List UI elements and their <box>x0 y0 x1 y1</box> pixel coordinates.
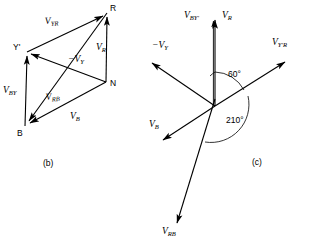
node-label-n: N <box>110 78 116 88</box>
vector-c-neg-v-y-line <box>152 63 215 106</box>
vector-label-c-v-b: VB <box>149 119 159 130</box>
vector-label-c-v-y-prime-r: VY'R <box>272 37 287 48</box>
vector-v-r-line <box>106 17 107 82</box>
node-label-r: R <box>110 3 116 13</box>
vector-label-v-by: VBY <box>3 85 18 96</box>
vector-label-c-v-by-prime: VBY' <box>184 10 200 21</box>
phasor-figure: R Y' N B VYR VR VBY −VY VRB VB <box>0 0 312 244</box>
vector-label-c-neg-v-y: −VY <box>152 40 169 51</box>
angle-arc-60-tail <box>210 72 215 76</box>
vector-v-rb-line <box>29 13 107 121</box>
vector-v-by-line <box>25 56 27 126</box>
vector-c-v-rb-line <box>177 99 215 223</box>
vector-label-v-yr: VYR <box>44 15 58 27</box>
vector-c-v-y-prime-r-line <box>215 62 285 106</box>
vector-label-neg-v-y: −VY <box>68 54 85 65</box>
caption-panel-c: (c) <box>252 157 262 167</box>
panel-b: R Y' N B VYR VR VBY −VY VRB VB <box>3 3 116 168</box>
node-label-y-prime: Y' <box>13 42 21 52</box>
vector-label-c-v-r: VR <box>222 10 232 21</box>
vector-label-v-rb: VRB <box>45 91 60 104</box>
vector-v-b-line <box>30 82 106 123</box>
vector-label-c-v-rb: VRB <box>162 226 176 237</box>
node-label-b: B <box>17 128 23 138</box>
vector-label-v-r: VR <box>96 42 106 53</box>
angle-label-210: 210° <box>226 115 244 125</box>
caption-panel-b: (b) <box>43 158 54 168</box>
phasor-diagram-canvas: R Y' N B VYR VR VBY −VY VRB VB <box>0 0 312 244</box>
panel-c: VBY' VR VY'R −VY VB VRB 60° 210° (c) <box>149 10 287 237</box>
vector-label-v-b: VB <box>70 111 80 122</box>
angle-label-60: 60° <box>228 69 241 79</box>
